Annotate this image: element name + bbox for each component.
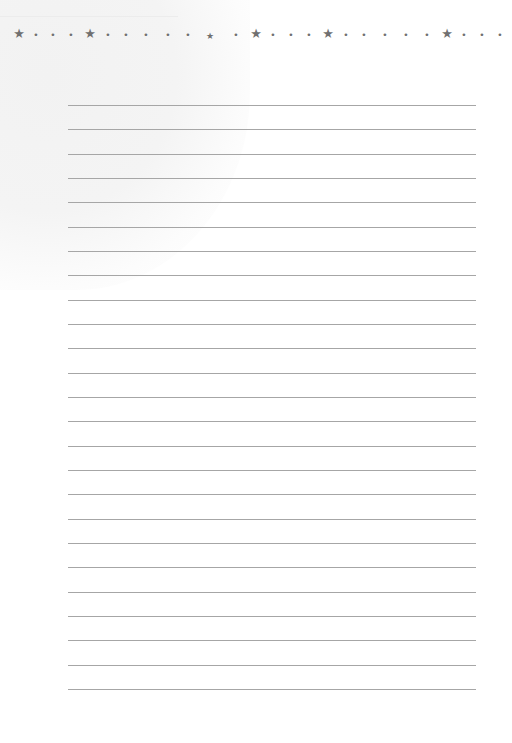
ruled-line [68, 665, 476, 666]
ruled-line [68, 202, 476, 203]
star-icon: ★ [13, 26, 25, 42]
ruled-line [68, 251, 476, 252]
ruled-line [68, 154, 476, 155]
ruled-line [68, 373, 476, 374]
ruled-line [68, 227, 476, 228]
ruled-line [68, 640, 476, 641]
ruled-line [68, 300, 476, 301]
ruled-line [68, 446, 476, 447]
ruled-line [68, 129, 476, 130]
ruled-line [68, 324, 476, 325]
ruled-line [68, 592, 476, 593]
ruled-line [68, 470, 476, 471]
ruled-line [68, 105, 476, 106]
ruled-line [68, 397, 476, 398]
ruled-line [68, 689, 476, 690]
dot-icon: • [33, 27, 38, 43]
ruled-lines [68, 0, 476, 743]
ruled-line [68, 519, 476, 520]
ruled-line [68, 543, 476, 544]
lined-paper-page: ★•••★•••••★•★•••★•••••★••• [0, 0, 512, 743]
ruled-line [68, 421, 476, 422]
ruled-line [68, 567, 476, 568]
dot-icon: • [50, 27, 55, 43]
dot-icon: • [497, 27, 502, 43]
dot-icon: • [479, 27, 484, 43]
ruled-line [68, 494, 476, 495]
ruled-line [68, 348, 476, 349]
ruled-line [68, 178, 476, 179]
ruled-line [68, 275, 476, 276]
ruled-line [68, 616, 476, 617]
